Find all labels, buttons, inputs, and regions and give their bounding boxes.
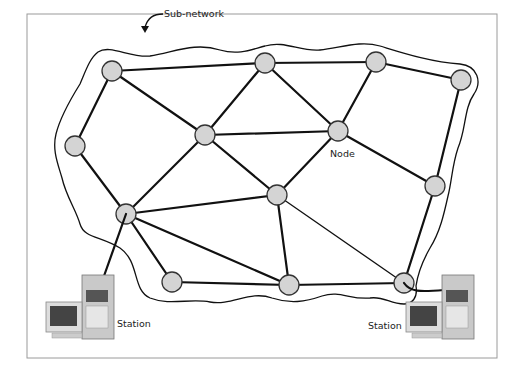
- network-diagram: Sub-network Node Station Station: [0, 0, 520, 375]
- subnetwork-label: Sub-network: [164, 8, 225, 19]
- node-H[interactable]: [425, 176, 445, 196]
- node-B[interactable]: [255, 53, 275, 73]
- node-K[interactable]: [162, 272, 182, 292]
- node-C[interactable]: [366, 52, 386, 72]
- node-label: Node: [330, 148, 355, 159]
- node-L[interactable]: [279, 275, 299, 295]
- node-E[interactable]: [65, 136, 85, 156]
- node-A[interactable]: [102, 61, 122, 81]
- station-right-label: Station: [368, 320, 402, 331]
- node-G[interactable]: [328, 121, 348, 141]
- node-D[interactable]: [451, 70, 471, 90]
- node-F[interactable]: [195, 125, 215, 145]
- node-J[interactable]: [267, 185, 287, 205]
- link-B-C: [265, 62, 376, 63]
- station-left-label: Station: [117, 318, 151, 329]
